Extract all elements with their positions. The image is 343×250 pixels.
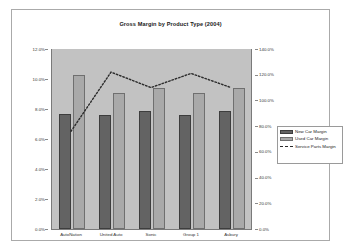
x-axis-category-labels: AutoNationUnited AutoSonicGroup 1Asbury	[51, 232, 251, 242]
axis-tick-mark	[255, 229, 258, 230]
chart-frame: Gross Margin by Product Type (2004) 0.0%…	[11, 9, 330, 241]
legend-label-service-parts-margin: Service Parts Margin	[295, 144, 336, 150]
axis-tick-mark	[255, 152, 258, 153]
axis-tick-mark	[45, 229, 48, 230]
axis-tick-label: 0.0%	[259, 227, 269, 232]
x-axis-label: Group 1	[183, 232, 199, 238]
legend-item-used-car-margin: Used Car Margin	[280, 136, 340, 143]
x-axis-label: Sonic	[146, 232, 157, 238]
x-axis-label: AutoNation	[60, 232, 82, 238]
axis-tick-label: 40.0%	[259, 175, 271, 180]
axis-tick-label: 8.0%	[35, 107, 45, 112]
axis-tick-mark	[45, 139, 48, 140]
axis-tick-label: 80.0%	[259, 124, 271, 129]
axis-tick-label: 12.0%	[33, 47, 45, 52]
axis-tick-mark	[45, 169, 48, 170]
axis-tick-label: 20.0%	[259, 201, 271, 206]
chart-legend: New Car Margin Used Car Margin Service P…	[277, 126, 343, 164]
legend-swatch-new-car-margin	[280, 130, 293, 134]
axis-tick-label: 2.0%	[35, 197, 45, 202]
axis-tick-mark	[45, 199, 48, 200]
axis-tick-mark	[255, 126, 258, 127]
line-path-service-parts-margin	[71, 72, 231, 131]
axis-tick-label: 140.0%	[259, 47, 274, 52]
service-parts-margin-line	[51, 49, 251, 229]
legend-label-new-car-margin: New Car Margin	[295, 129, 327, 135]
axis-tick-mark	[45, 79, 48, 80]
axis-tick-mark	[255, 100, 258, 101]
legend-swatch-service-parts-margin	[280, 145, 293, 149]
axis-tick-mark	[45, 49, 48, 50]
axis-tick-label: 100.0%	[259, 98, 274, 103]
axis-tick-label: 10.0%	[33, 77, 45, 82]
legend-item-service-parts-margin: Service Parts Margin	[280, 143, 340, 150]
legend-item-new-car-margin: New Car Margin	[280, 129, 340, 136]
axis-tick-mark	[255, 203, 258, 204]
axis-tick-label: 6.0%	[35, 137, 45, 142]
left-y-axis: 0.0%2.0%4.0%6.0%8.0%10.0%12.0%	[18, 49, 48, 229]
chart-title: Gross Margin by Product Type (2004)	[12, 21, 329, 28]
axis-tick-mark	[255, 178, 258, 179]
axis-tick-mark	[45, 109, 48, 110]
x-axis-label: United Auto	[100, 232, 123, 238]
legend-label-used-car-margin: Used Car Margin	[295, 136, 328, 142]
axis-tick-label: 120.0%	[259, 72, 274, 77]
axis-tick-mark	[255, 49, 258, 50]
x-axis-label: Asbury	[224, 232, 238, 238]
axis-tick-label: 0.0%	[35, 227, 45, 232]
right-axis-line	[251, 49, 252, 230]
legend-swatch-used-car-margin	[280, 137, 293, 141]
axis-tick-mark	[255, 75, 258, 76]
axis-tick-label: 60.0%	[259, 149, 271, 154]
axis-tick-label: 4.0%	[35, 167, 45, 172]
